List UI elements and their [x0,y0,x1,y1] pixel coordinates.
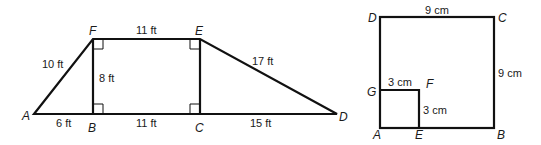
measure-fe: 11 ft [136,24,157,36]
vertex-label-b: B [88,121,96,135]
vertex-label-e: E [195,24,204,38]
measure-ab: 6 ft [56,117,71,129]
squares-figure: D C B A E F G 9 cm 9 cm 3 cm 3 cm [367,4,522,142]
vertex-label-g2: G [367,85,376,99]
measure-ed: 17 ft [252,55,273,67]
right-angle-c-icon [190,104,200,114]
vertex-label-a2: A [372,128,381,142]
vertex-label-d2: D [368,11,377,25]
vertex-label-c2: C [498,11,507,25]
right-angle-f-icon [93,39,103,49]
measure-fb: 8 ft [99,72,114,84]
vertex-label-c: C [195,121,204,135]
measure-af: 10 ft [42,58,63,70]
measure-bc: 11 ft [136,117,157,129]
vertex-label-a: A [21,109,30,123]
right-angle-e-icon [190,39,200,49]
small-square [380,90,419,128]
vertex-label-f: F [89,24,97,38]
vertex-label-e2: E [415,128,424,142]
trapezoid-figure: A B C D E F 10 ft 11 ft 17 ft 8 ft 6 ft … [21,24,348,135]
vertex-label-b2: B [497,128,505,142]
vertex-label-d: D [339,110,348,124]
measure-fe2: 3 cm [423,104,447,116]
measure-cb: 9 cm [498,67,522,79]
measure-cd: 15 ft [250,117,271,129]
measure-dc: 9 cm [425,4,449,16]
measure-gf: 3 cm [388,76,412,88]
vertex-label-f2: F [426,77,434,91]
trapezoid-outline [34,39,337,114]
right-angle-b-icon [93,104,103,114]
geometry-diagram: A B C D E F 10 ft 11 ft 17 ft 8 ft 6 ft … [0,0,541,145]
